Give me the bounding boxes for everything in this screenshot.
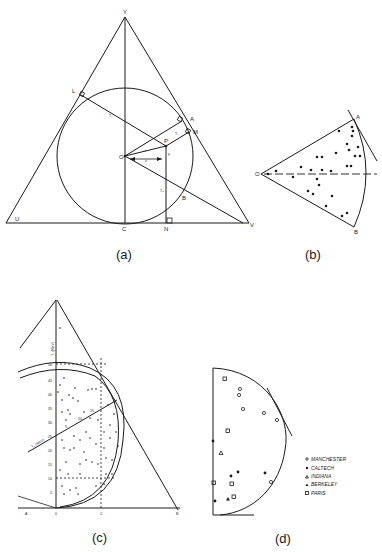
tick-v-30: 30: [48, 421, 52, 425]
label-x: x: [145, 159, 147, 163]
segment-ov: [125, 156, 243, 223]
panel-d: MANCHESTER CALTECH INDIANA BERKELEY PARI…: [212, 368, 347, 546]
triangle-right-side: [57, 300, 178, 510]
data-points-d: [212, 377, 279, 502]
lower-arc: [18, 496, 56, 508]
inner-arc: [20, 369, 119, 507]
tick-v-40: 40: [48, 393, 52, 397]
caption-c: (c): [92, 530, 107, 545]
half-disc-arc: [213, 368, 286, 515]
legend-filled-triangle-icon: [306, 484, 309, 487]
outer-arc: [18, 362, 124, 508]
tick-v-25: 25: [48, 435, 52, 439]
right-angle-l-icon: [79, 91, 84, 96]
tick-v-45: 45: [48, 379, 52, 383]
tick-d-5: 5: [65, 425, 67, 429]
label-y: Y: [123, 9, 127, 15]
label-n: N: [164, 226, 168, 232]
sector-arc: [354, 119, 366, 227]
point-p: [165, 145, 167, 147]
label-o-b: O: [255, 171, 260, 177]
tick-v-50: 50: [48, 363, 52, 367]
caption-a: (a): [116, 247, 132, 262]
label-a: A: [190, 116, 194, 122]
legend-open-circle-icon: [306, 458, 308, 460]
arrowhead-right-icon: [157, 157, 162, 161]
label-p: P: [164, 138, 168, 144]
point-o: [124, 155, 126, 157]
corner-label-mid: C: [100, 512, 103, 516]
tick-v-10: 10: [48, 477, 52, 481]
legend-indiana: INDIANA: [311, 473, 332, 479]
label-u: U: [15, 216, 19, 222]
legend-open-square-icon: [306, 492, 309, 495]
tick-v-15: 15: [48, 463, 52, 467]
caption-b: (b): [305, 247, 321, 262]
label-o: O: [119, 154, 124, 160]
diagonal-axis: [28, 400, 117, 452]
triangle-left-side: [20, 300, 56, 348]
tick-v-5: 5: [50, 491, 52, 495]
caption-d: (d): [275, 531, 291, 546]
legend: MANCHESTER CALTECH INDIANA BERKELEY PARI…: [306, 456, 347, 496]
label-b: B: [182, 195, 186, 201]
legend-open-triangle-icon: [306, 476, 309, 479]
sector-edge-oa: [261, 119, 354, 174]
legend-paris: PARIS: [311, 490, 326, 496]
label-y-coord: y: [168, 152, 170, 156]
panel-c: 5 10 15 20 25 30 35 40 45 50 T₁ (MeV) T₂…: [18, 300, 180, 545]
corner-label-origin: 0: [55, 512, 57, 516]
legend-manchester: MANCHESTER: [311, 456, 346, 462]
label-c: C: [122, 226, 127, 232]
label-l: L: [72, 88, 76, 94]
panel-a: Y L A M P O B U C N V T₁ T₂ T₃ r x y (a): [6, 9, 254, 262]
legend-filled-circle-icon: [306, 467, 308, 469]
label-a-b: A: [356, 114, 360, 120]
label-v: V: [250, 222, 254, 228]
label-t3: T₃: [160, 189, 164, 193]
corner-label-right: B: [176, 512, 179, 516]
corner-label-left: A: [25, 512, 28, 516]
legend-berkeley: BERKELEY: [311, 481, 338, 487]
triangle-uyv: [6, 17, 249, 223]
tick-d-10: 10: [78, 417, 82, 421]
label-t1: T₁: [175, 132, 179, 136]
right-angle-n-icon: [167, 218, 172, 223]
figure-canvas: Y L A M P O B U C N V T₁ T₂ T₃ r x y (a): [0, 0, 382, 552]
legend-caltech: CALTECH: [311, 465, 334, 471]
tangent-line-d: [267, 388, 292, 436]
label-t2: T₂: [109, 114, 113, 118]
vertical-axis-label: T₁ (MeV): [51, 342, 55, 356]
label-b-b: B: [354, 229, 358, 235]
sector-edge-ob: [261, 174, 354, 227]
tick-d-15: 15: [90, 409, 94, 413]
data-points-c: [57, 327, 119, 495]
tick-v-20: 20: [48, 449, 52, 453]
tick-v-35: 35: [48, 407, 52, 411]
panel-b: O A B (b): [255, 110, 377, 262]
data-points-b: [267, 126, 362, 218]
label-m: M: [193, 129, 198, 135]
